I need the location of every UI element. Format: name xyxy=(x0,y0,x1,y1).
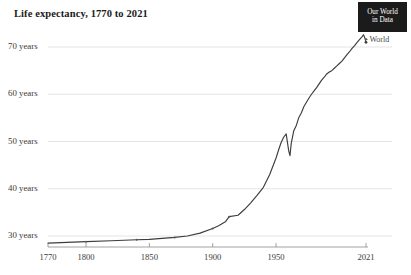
x-tick-label-1900: 1900 xyxy=(204,252,221,262)
x-tick-label-1950: 1950 xyxy=(267,252,284,262)
data-point xyxy=(174,236,176,238)
plot-area xyxy=(0,0,411,275)
y-tick-label-40: 40 years xyxy=(8,183,38,193)
x-tick-label-1770: 1770 xyxy=(39,252,56,262)
line-chart-svg xyxy=(0,0,411,275)
series-endpoint-marker xyxy=(365,41,368,44)
x-tick-label-1850: 1850 xyxy=(141,252,158,262)
series-label-world: World xyxy=(369,35,389,44)
series-label-pointer-icon xyxy=(365,38,368,42)
y-tick-label-30: 30 years xyxy=(8,230,38,240)
y-tick-label-60: 60 years xyxy=(8,88,38,98)
x-tick-label-2021: 2021 xyxy=(357,252,374,262)
chart-root: Life expectancy, 1770 to 2021 Our World … xyxy=(0,0,411,275)
series-line-world[interactable] xyxy=(48,35,366,243)
y-tick-label-50: 50 years xyxy=(8,136,38,146)
x-tick-label-1800: 1800 xyxy=(77,252,94,262)
y-tick-label-70: 70 years xyxy=(8,41,38,51)
data-point xyxy=(228,216,230,218)
data-point xyxy=(85,241,87,243)
data-point xyxy=(136,239,138,241)
data-point xyxy=(212,227,214,229)
